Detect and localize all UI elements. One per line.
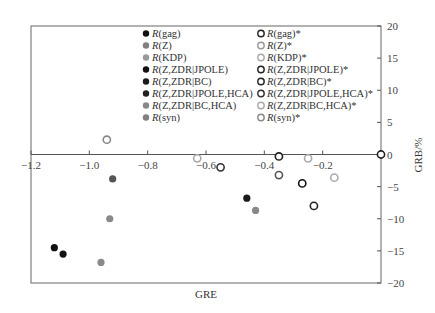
open-point	[331, 174, 338, 181]
legend-marker-icon	[258, 90, 264, 96]
legend-label: R(Z,ZDR|BC,HCA)*	[266, 100, 357, 112]
y-tick-label: 20	[387, 20, 399, 32]
legend-marker-icon	[143, 54, 149, 60]
legend-label: R(gag)	[151, 28, 181, 40]
legend-label: R(Z,ZDR|JPOLE,HCA)*	[266, 88, 373, 100]
y-tick-label: 15	[387, 52, 399, 64]
filled-point	[97, 259, 104, 266]
open-point	[217, 164, 224, 171]
filled-point	[252, 207, 259, 214]
open-point	[275, 171, 282, 178]
legend-marker-icon	[258, 54, 264, 60]
x-tick-label: −0.4	[254, 159, 274, 171]
open-point	[377, 151, 384, 158]
open-point	[299, 180, 306, 187]
x-axis-title: GRE	[195, 288, 217, 300]
legend-marker-icon	[143, 102, 149, 108]
filled-point	[59, 250, 66, 257]
legend-label: R(Z)	[151, 40, 172, 52]
legend-marker-icon	[143, 42, 149, 48]
legend-label: R(Z,ZDR|JPOLE)	[151, 64, 228, 76]
y-tick-label: −20	[387, 277, 405, 289]
legend-label: R(syn)	[151, 112, 181, 124]
legend-marker-icon	[143, 78, 149, 84]
filled-point	[243, 195, 250, 202]
legend-marker-icon	[258, 114, 264, 120]
legend: R(gag)R(Z)R(KDP)R(Z,ZDR|JPOLE)R(Z,ZDR|BC…	[143, 28, 373, 124]
legend-label: R(syn)*	[266, 112, 300, 124]
y-axis-title: GRB/%	[412, 138, 424, 173]
open-point	[304, 155, 311, 162]
legend-label: R(Z,ZDR|BC)	[151, 76, 212, 88]
legend-label: R(Z,ZDR|BC,HCA)	[151, 100, 237, 112]
legend-marker-icon	[143, 66, 149, 72]
legend-label: R(Z)*	[266, 40, 292, 52]
y-tick-label: −10	[387, 213, 405, 225]
x-tick-label: −0.2	[313, 159, 333, 171]
open-point	[310, 202, 317, 209]
data-points	[51, 136, 385, 266]
y-tick-label: 5	[387, 116, 393, 128]
legend-marker-icon	[258, 102, 264, 108]
y-tick-label: −5	[387, 181, 399, 193]
legend-marker-icon	[258, 30, 264, 36]
legend-label: R(Z,ZDR|JPOLE,HCA)	[151, 88, 253, 100]
legend-label: R(gag)*	[266, 28, 301, 40]
legend-marker-icon	[143, 30, 149, 36]
x-tick-label: −1.0	[79, 159, 99, 171]
legend-label: R(KDP)	[151, 52, 187, 64]
filled-point	[109, 175, 116, 182]
x-tick-label: −1.2	[21, 159, 41, 171]
filled-point	[51, 244, 58, 251]
open-point	[275, 153, 282, 160]
legend-marker-icon	[258, 66, 264, 72]
legend-marker-icon	[258, 78, 264, 84]
legend-label: R(KDP)*	[266, 52, 307, 64]
legend-marker-icon	[258, 42, 264, 48]
scatter-chart: −1.2−1.0−0.8−0.6−0.4−0.2 20151050−5−10−1…	[0, 0, 435, 313]
legend-marker-icon	[143, 114, 149, 120]
filled-point	[106, 215, 113, 222]
legend-label: R(Z,ZDR|JPOLE)*	[266, 64, 348, 76]
open-point	[103, 136, 110, 143]
legend-marker-icon	[143, 90, 149, 96]
y-tick-label: 10	[387, 84, 399, 96]
open-point	[194, 155, 201, 162]
legend-label: R(Z,ZDR|BC)*	[266, 76, 332, 88]
x-axis-ticks: −1.2−1.0−0.8−0.6−0.4−0.2	[21, 151, 333, 171]
y-tick-label: 0	[387, 149, 393, 161]
x-tick-label: −0.8	[138, 159, 158, 171]
y-tick-label: −15	[387, 245, 405, 257]
